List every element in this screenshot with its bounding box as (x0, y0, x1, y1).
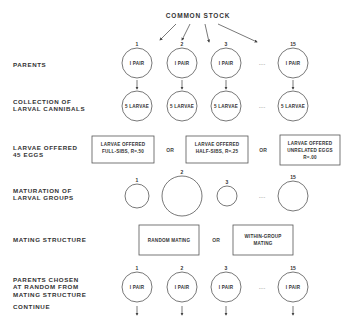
breeding-diagram: COMMON STOCK1I PAIR2I PAIR3I PAIR15I PAI… (0, 0, 355, 329)
parent-pair-label: I PAIR (286, 61, 301, 66)
parent-pair-label: I PAIR (219, 61, 234, 66)
treatment-line: LARVAE OFFERED (195, 142, 240, 147)
group-number: 3 (226, 179, 229, 185)
chosen-pair-label: I PAIR (219, 285, 234, 290)
larval-group-circle (125, 184, 149, 208)
or-label: OR (259, 147, 267, 153)
group-number: 2 (181, 169, 184, 175)
mating-line: WITHIN-GROUP (244, 234, 281, 239)
ellipsis: .... (259, 60, 266, 66)
group-number: 2 (181, 265, 184, 271)
larvae-label: 5 LARVAE (281, 104, 305, 109)
larval-group-circle (217, 186, 237, 206)
treatment-line: FULL-SIBS, R=.50 (102, 149, 144, 154)
stock-arrow (218, 24, 257, 42)
stock-arrow (182, 24, 190, 40)
treatment-line: R=.00 (303, 155, 317, 160)
mating-box (233, 225, 293, 255)
chosen-pair-label: I PAIR (175, 285, 190, 290)
group-number: 1 (136, 177, 139, 183)
ellipsis: .... (259, 193, 266, 199)
ellipsis: .... (259, 284, 266, 290)
group-number: 15 (290, 265, 296, 271)
or-label: OR (166, 147, 174, 153)
treatment-line: LARVAE OFFERED (288, 141, 333, 146)
larvae-label: 5 LARVAE (214, 104, 238, 109)
stock-arrow (160, 24, 176, 40)
stock-arrow (205, 24, 209, 42)
parent-pair-label: I PAIR (130, 61, 145, 66)
mating-line: MATING (254, 241, 273, 246)
mating-line: RANDOM MATING (148, 238, 191, 243)
chosen-pair-label: I PAIR (130, 285, 145, 290)
group-number: 1 (136, 265, 139, 271)
group-number: 3 (225, 41, 228, 47)
chosen-pair-label: I PAIR (286, 285, 301, 290)
larval-group-circle (162, 176, 202, 216)
larvae-label: 5 LARVAE (125, 104, 149, 109)
group-number: 2 (181, 41, 184, 47)
group-number: 3 (225, 265, 228, 271)
or-label: OR (212, 237, 220, 243)
common-stock-title: COMMON STOCK (166, 12, 230, 19)
treatment-line: HALF-SIBS, R=.25 (196, 149, 239, 154)
larval-group-circle (278, 181, 308, 211)
parent-pair-label: I PAIR (175, 61, 190, 66)
treatment-line: UNRELATED EGGS (287, 148, 332, 153)
group-number: 15 (290, 41, 296, 47)
ellipsis: .... (259, 103, 266, 109)
treatment-line: LARVAE OFFERED (101, 142, 146, 147)
larvae-label: 5 LARVAE (170, 104, 194, 109)
group-number: 1 (136, 41, 139, 47)
group-number: 15 (290, 174, 296, 180)
